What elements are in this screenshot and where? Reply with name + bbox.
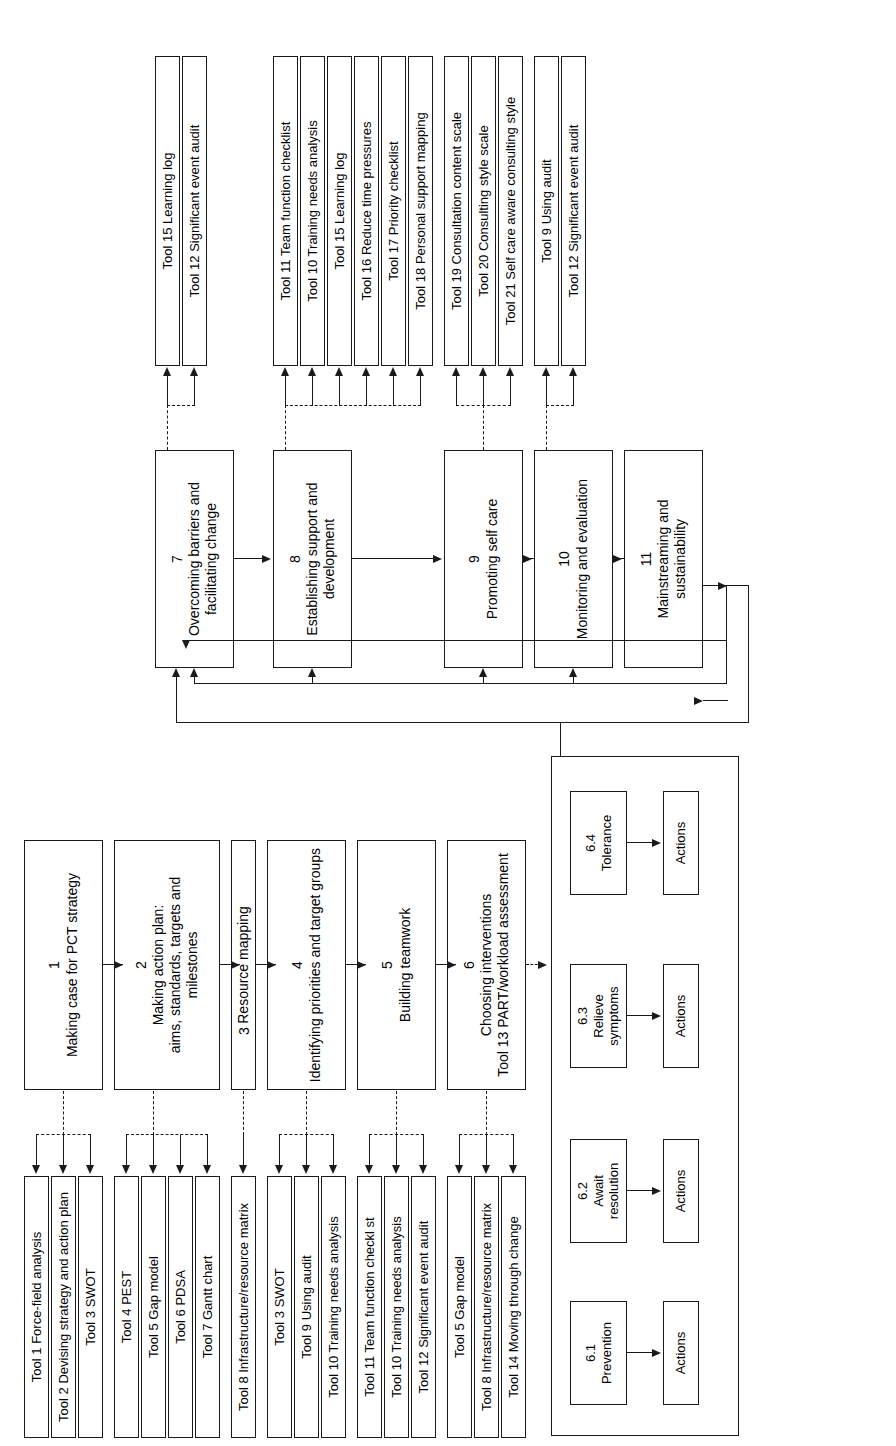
substep-number: 6.2 [575,1182,591,1200]
tool-label: Tool 5 Gap model [146,1256,162,1358]
tool-label: Tool 10 Training needs analysis [389,1216,405,1397]
step-number: 4 [289,961,306,969]
dashed-stem [153,1091,154,1135]
step-number: 8 [287,555,304,563]
arrow-head [569,367,577,376]
arrow-head [122,1165,130,1174]
tool-box: Tool 9 Using audit [534,56,559,366]
connector [366,376,367,406]
step-box-8: 8 Establishing support and development [273,450,352,668]
arrow-head [190,367,198,376]
substep-box-6-1: 6.1 Prevention [570,1301,627,1405]
tool-label: Tool 8 Infrastructure/resource matrix [236,1203,252,1411]
feedback-inner-stub-9 [483,677,484,684]
connector [546,376,547,406]
arrow-head [32,1165,40,1174]
arrow-head [308,367,316,376]
action-box-6-2: Actions [663,1139,699,1243]
connector [627,842,652,843]
tool-label: Tool 11 Team function checkl st [362,1217,378,1396]
arrow-head [452,367,460,376]
tool-label: Tool 15 Learning log [160,152,176,269]
tool-box: Tool 10 Training needs analysis [384,1176,409,1438]
connector [627,1190,652,1191]
connector [396,1135,397,1165]
connector [234,558,262,559]
tool-label: Tool 6 PDSA [173,1270,189,1344]
tool-label: Tool 3 SWOT [83,1268,99,1345]
step-label: Choosing interventions Tool 13 PART/work… [478,853,512,1077]
tool-box: Tool 17 Priority checklist [381,56,406,366]
arrow-head [613,556,622,564]
arrow-head [357,962,366,970]
connector [279,1135,280,1165]
feedback-inner-stub-8 [312,677,313,684]
step-label: Monitoring and evaluation [574,479,591,639]
feedback-inner-rail-fix [194,683,726,684]
tool-box: Tool 16 Reduce time pressures [354,56,379,366]
tool-box: Tool 21 Self care aware consulting style [498,56,523,366]
step-label: Making action plan: aims, standards, tar… [150,844,201,1086]
tool-box: Tool 14 Moving through change [501,1176,526,1438]
diagram-canvas: Tool 1 Force-field analysis Tool 2 Devis… [0,0,896,1446]
tool-box: Tool 3 SWOT [267,1176,292,1438]
feedback-inner-rail [186,640,726,641]
connector [510,376,511,406]
arrow-head [182,640,190,649]
tool-label: Tool 12 Significant event audit [416,1221,432,1394]
arrow-head [506,367,514,376]
tool-label: Tool 11 Team function checklist [278,122,294,301]
step-label: Overcoming barriers and facilitating cha… [186,482,220,636]
arrow-head [308,668,316,677]
connector [312,376,313,406]
feedback-outer-top [176,677,177,723]
arrow-head [335,367,343,376]
arrow-head [652,1350,661,1358]
arrow-head [203,1165,211,1174]
connector [36,1135,37,1165]
arrow-head [59,1165,67,1174]
tool-label: Tool 18 Personal support mapping [413,112,429,309]
dashed-bus [126,1134,208,1135]
tool-box: Tool 11 Team function checklist [273,56,298,366]
tool-label: Tool 1 Force-field analysis [29,1232,45,1382]
arrow-head [433,556,442,564]
action-box-6-1: Actions [663,1301,699,1405]
connector [486,1135,487,1165]
tool-box: Tool 18 Personal support mapping [408,56,433,366]
connector [167,376,168,406]
arrow-head [389,367,397,376]
dashed-stem [243,1091,244,1135]
feedback-connector [703,700,728,701]
connector [207,1135,208,1165]
substep-label: Await resolution [591,1163,623,1219]
arrow-head [482,1165,490,1174]
substep-box-6-3: 6.3 Relieve symptoms [570,964,627,1068]
tool-box: Tool 2 Devising strategy and action plan [51,1176,76,1438]
dashed-stem [483,405,484,450]
tool-box: Tool 5 Gap model [141,1176,166,1438]
dashed-bus [285,405,421,406]
dashed-stem [306,1091,307,1135]
connector [243,1135,244,1165]
step-number: 2 [133,961,150,969]
arrow-head [392,1165,400,1174]
action-label: Actions [673,822,689,865]
tool-box: Tool 10 Training needs analysis [321,1176,346,1438]
dashed-stem [546,405,547,450]
arrow-head [163,367,171,376]
tool-label: Tool 14 Moving through change [506,1216,522,1397]
action-box-6-3: Actions [663,964,699,1068]
tool-label: Tool 7 Gantt chart [200,1256,216,1359]
step-box-1: 1 Making case for PCT strategy [24,840,103,1090]
arrow-head [302,1165,310,1174]
arrow-head [652,1013,661,1021]
tool-label: Tool 9 Using audit [299,1255,315,1358]
arrow-head [231,962,240,970]
step-label: Mainstreaming and sustainability [655,499,689,618]
arrow-head [509,1165,517,1174]
step-box-9: 9 Promoting self care [444,450,523,668]
action-label: Actions [673,1170,689,1213]
substep-number: 6.1 [583,1344,599,1362]
substep-number: 6.3 [575,1007,591,1025]
